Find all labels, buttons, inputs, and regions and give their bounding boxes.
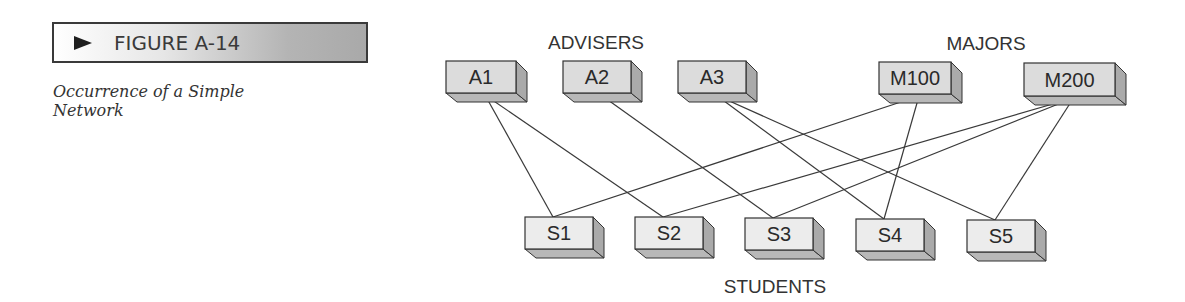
node-s4: S4 <box>856 219 935 260</box>
edge-a3-s4 <box>716 95 884 219</box>
node-s3: S3 <box>745 218 824 259</box>
edge-m200-s2 <box>663 98 1074 217</box>
node-label: A2 <box>585 66 609 88</box>
network-diagram: A1A2A3M100M200S1S2S3S4S5 <box>0 0 1185 302</box>
node-s1: S1 <box>525 217 604 258</box>
nodes-layer: A1A2A3M100M200S1S2S3S4S5 <box>446 61 1126 261</box>
edge-m200-s5 <box>995 98 1074 220</box>
edge-m200-s3 <box>773 98 1074 218</box>
edge-a1-s2 <box>485 95 663 217</box>
node-s2: S2 <box>635 217 714 258</box>
edge-m100-s1 <box>553 96 919 217</box>
node-s5: S5 <box>967 220 1046 261</box>
node-a2: A2 <box>563 61 642 102</box>
node-label: S4 <box>878 224 902 246</box>
edge-a1-s1 <box>485 95 553 217</box>
node-label: S5 <box>989 225 1013 247</box>
node-label: A3 <box>700 66 724 88</box>
edge-a3-s5 <box>716 95 995 220</box>
edge-a2-s3 <box>601 95 773 218</box>
node-label: S3 <box>767 223 791 245</box>
node-m200: M200 <box>1024 63 1126 105</box>
node-label: S1 <box>547 222 571 244</box>
node-label: S2 <box>657 222 681 244</box>
edge-m100-s4 <box>884 96 919 219</box>
node-a3: A3 <box>678 61 757 102</box>
node-label: A1 <box>469 66 493 88</box>
node-label: M200 <box>1044 69 1094 91</box>
edges-layer <box>485 95 1074 220</box>
node-label: M100 <box>890 67 940 89</box>
node-m100: M100 <box>879 62 962 103</box>
node-a1: A1 <box>446 61 527 102</box>
